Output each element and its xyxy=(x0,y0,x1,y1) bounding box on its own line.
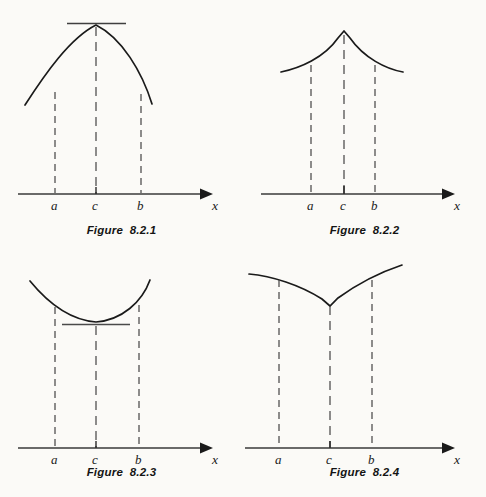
figure-caption-4: Figure 8.2.4 xyxy=(243,466,486,478)
figure-caption-2: Figure 8.2.2 xyxy=(243,224,486,236)
figure-plate: x a c b x xyxy=(0,0,486,497)
figure-cell-4: Figure 8.2.4 xyxy=(243,248,486,497)
figure-cell-2: Figure 8.2.2 xyxy=(243,0,486,248)
figure-caption-1: Figure 8.2.1 xyxy=(0,224,243,236)
figure-caption-3: Figure 8.2.3 xyxy=(0,466,243,478)
figure-cell-3: Figure 8.2.3 xyxy=(0,248,243,497)
caption-grid: Figure 8.2.1 Figure 8.2.2 Figure 8.2.3 F… xyxy=(0,0,486,497)
figure-cell-1: Figure 8.2.1 xyxy=(0,0,243,248)
